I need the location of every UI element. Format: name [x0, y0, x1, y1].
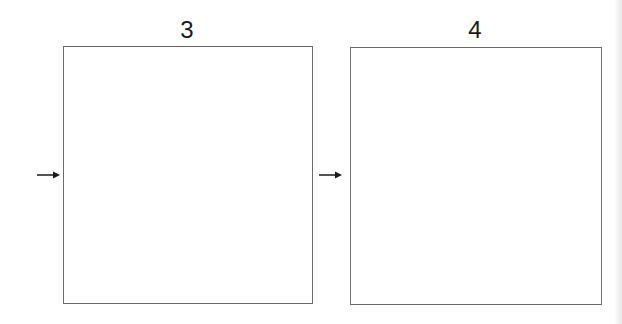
panel-box-3 — [63, 46, 313, 304]
panel-label-3: 3 — [167, 18, 207, 42]
right-arrow-icon — [319, 170, 343, 180]
page-edge-shadow — [614, 0, 622, 324]
panel-label-4: 4 — [455, 18, 495, 42]
panel-box-4 — [350, 47, 602, 305]
right-arrow-icon — [37, 170, 61, 180]
